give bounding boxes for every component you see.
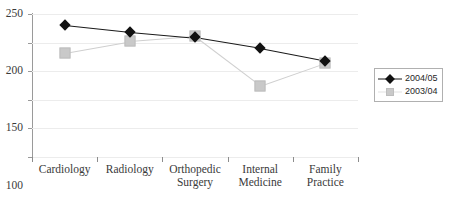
legend-label-2003-04: 2003/04: [405, 86, 438, 97]
x-axis-tick: [162, 157, 163, 162]
y-axis-tick: 50: [28, 128, 32, 129]
y-axis-tick-label: 200: [6, 65, 23, 77]
x-axis-category-label-line: Orthopedic: [169, 163, 221, 176]
series-line-segment: [195, 36, 261, 86]
plot-area: 050100150200250: [32, 14, 358, 157]
gridline: [32, 128, 358, 129]
chart-legend: 2004/05 2003/04: [374, 68, 443, 102]
y-axis-tick: 100: [28, 100, 32, 101]
legend-key-2004-05: [378, 73, 402, 84]
x-axis-category-label-line: Internal: [238, 163, 281, 176]
legend-item-2004-05[interactable]: 2004/05: [378, 72, 438, 85]
x-axis-tick: [32, 157, 33, 162]
gridline: [32, 157, 358, 158]
legend-label-2004-05: 2004/05: [405, 73, 438, 84]
y-axis-tick-label: 250: [6, 8, 23, 20]
square-marker-icon: [386, 88, 394, 96]
series-line-segment: [65, 25, 130, 33]
y-axis-tick-label: 150: [6, 123, 23, 135]
y-axis-tick: 250: [28, 14, 32, 15]
x-axis-category-label-line: Medicine: [238, 176, 281, 189]
data-point-marker: [59, 19, 70, 30]
x-axis-category-label-line: Radiology: [106, 163, 154, 176]
diamond-marker-icon: [385, 74, 395, 84]
x-axis-category-label-line: Family: [307, 163, 344, 176]
x-axis-tick: [293, 157, 294, 162]
x-axis-category-label: Cardiology: [39, 163, 91, 176]
x-axis-category-label: FamilyPractice: [307, 163, 344, 189]
data-point-marker: [255, 80, 266, 91]
x-axis-category-label-line: Practice: [307, 176, 344, 189]
x-axis-category-label: Radiology: [106, 163, 154, 176]
gridline: [32, 71, 358, 72]
line-chart: 050100150200250 CardiologyRadiologyOrtho…: [0, 0, 449, 209]
x-axis-category-label: OrthopedicSurgery: [169, 163, 221, 189]
gridline: [32, 14, 358, 15]
gridline: [32, 43, 358, 44]
x-axis-tick: [358, 157, 359, 162]
y-axis-tick: 200: [28, 43, 32, 44]
y-axis-tick: 150: [28, 71, 32, 72]
x-axis-tick: [97, 157, 98, 162]
series-line-segment: [260, 63, 326, 87]
gridline: [32, 100, 358, 101]
legend-item-2003-04[interactable]: 2003/04: [378, 85, 438, 98]
legend-key-2003-04: [378, 86, 402, 97]
data-point-marker: [59, 47, 70, 58]
x-axis-tick: [228, 157, 229, 162]
x-axis-category-label-line: Surgery: [169, 176, 221, 189]
x-axis-category-label-line: Cardiology: [39, 163, 91, 176]
series-line-segment: [260, 48, 325, 62]
data-point-marker: [255, 43, 266, 54]
x-axis-category-label: InternalMedicine: [238, 163, 281, 189]
y-axis-tick-label: 100: [6, 180, 23, 192]
